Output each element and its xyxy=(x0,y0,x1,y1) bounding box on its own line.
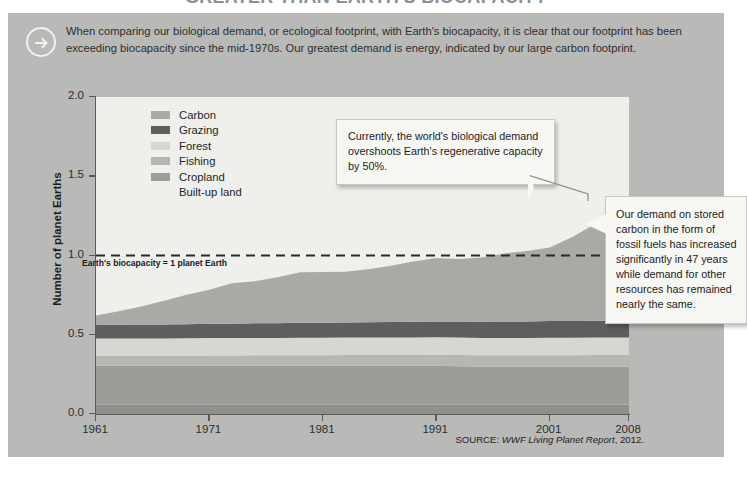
source-suffix: , 2012. xyxy=(615,434,644,445)
legend-swatch xyxy=(151,157,170,165)
legend-label: Built-up land xyxy=(179,186,242,198)
legend-item-forest: Forest xyxy=(151,138,242,154)
legend-swatch xyxy=(151,173,170,181)
legend-item-fishing: Fishing xyxy=(151,154,242,170)
legend-label: Carbon xyxy=(179,109,216,121)
legend-item-cropland: Cropland xyxy=(151,169,242,185)
chart-legend: CarbonGrazingForestFishingCroplandBuilt-… xyxy=(151,107,242,200)
arrow-right-circle-icon xyxy=(26,27,56,57)
legend-label: Cropland xyxy=(179,171,225,183)
area-band-cropland xyxy=(96,366,629,405)
legend-label: Forest xyxy=(179,140,211,152)
legend-swatch xyxy=(151,188,170,196)
y-axis-title: Number of planet Earths xyxy=(51,114,63,364)
intro-text: When comparing our biological demand, or… xyxy=(66,23,706,56)
legend-item-grazing: Grazing xyxy=(151,123,242,139)
legend-swatch xyxy=(151,126,170,134)
area-band-fishing xyxy=(96,355,629,367)
page-title: GREATER THAN EARTH'S BIOCAPACITY xyxy=(0,0,732,8)
source-prefix: SOURCE: xyxy=(455,434,501,445)
y-tick xyxy=(89,96,95,97)
y-tick-label: 0.0 xyxy=(36,406,84,418)
legend-label: Fishing xyxy=(179,155,215,167)
biocapacity-line-label: Earth's biocapacity = 1 planet Earth xyxy=(82,258,227,268)
y-tick-label: 2.0 xyxy=(36,89,84,101)
intro-banner: When comparing our biological demand, or… xyxy=(16,21,716,71)
callout-carbon: Our demand on stored carbon in the form … xyxy=(605,196,747,324)
page-title-strip: GREATER THAN EARTH'S BIOCAPACITY xyxy=(0,0,732,13)
source-title: WWF Living Planet Report xyxy=(502,434,615,445)
x-tick xyxy=(208,415,209,421)
y-tick xyxy=(89,255,95,256)
legend-item-carbon: Carbon xyxy=(151,107,242,123)
callout-overshoot-leader xyxy=(528,161,620,201)
source-note: SOURCE: WWF Living Planet Report, 2012. xyxy=(8,434,716,445)
x-tick xyxy=(95,415,96,421)
legend-item-built-up-land: Built-up land xyxy=(151,185,242,201)
figure-panel: When comparing our biological demand, or… xyxy=(8,13,724,457)
y-axis-line xyxy=(95,96,96,415)
legend-label: Grazing xyxy=(179,124,219,136)
area-band-forest xyxy=(96,337,629,356)
x-tick xyxy=(435,415,436,421)
x-tick xyxy=(628,415,629,421)
legend-swatch xyxy=(151,142,170,150)
callout-overshoot: Currently, the world's biological demand… xyxy=(336,119,555,185)
x-tick xyxy=(322,415,323,421)
legend-swatch xyxy=(151,111,170,119)
y-tick xyxy=(89,175,95,176)
x-tick xyxy=(549,415,550,421)
area-band-built-up-land xyxy=(96,404,629,414)
y-tick xyxy=(89,334,95,335)
callout-carbon-leader xyxy=(583,209,609,237)
